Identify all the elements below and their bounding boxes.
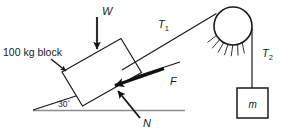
tension-t1-subscript: 1 [165, 24, 169, 33]
tension-t1-label: T1 [158, 18, 169, 33]
pulley-wheel [214, 7, 252, 45]
hanging-mass-label: m [249, 99, 257, 110]
normal-force-arrow [118, 91, 140, 118]
physics-free-body-diagram: 30° m W T1 T2 [0, 0, 287, 128]
tension-t2-label: T2 [262, 47, 273, 62]
block-mass-label: 100 kg block [3, 46, 63, 58]
block-on-incline [62, 39, 142, 107]
friction-label: F [170, 75, 178, 87]
diagram-canvas: 30° m W T1 T2 [0, 0, 287, 128]
weight-label: W [102, 5, 114, 17]
normal-label: N [143, 117, 151, 128]
angle-label: 30° [58, 99, 70, 109]
tension-t2-subscript: 2 [269, 53, 273, 62]
angle-value: 30 [58, 99, 68, 109]
angle-unit: ° [67, 99, 70, 105]
block-label-arrow [51, 59, 66, 71]
rope-t1 [122, 14, 217, 71]
